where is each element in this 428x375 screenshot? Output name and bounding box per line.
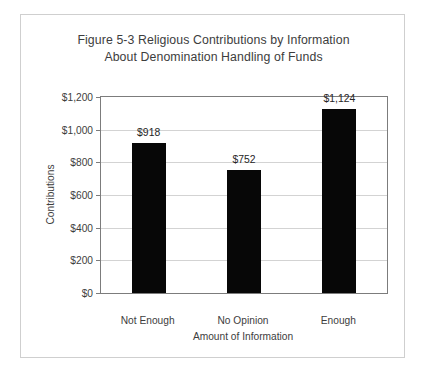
x-axis-category-label: Enough [321,315,356,326]
y-axis-tick [96,162,101,163]
bar [322,109,356,293]
y-axis-title-label: Contributions [45,164,56,224]
y-axis-tick [96,260,101,261]
y-axis-tick-label: $400 [70,222,93,233]
bar-value-label: $1,124 [323,93,355,104]
x-axis-title: Amount of Information [100,331,386,342]
plot-area: $0$200$400$600$800$1,000$1,200$918$752$1… [100,96,388,294]
bar [227,170,261,293]
y-axis-tick [96,130,101,131]
x-axis-category-label: No Opinion [218,315,269,326]
y-axis-tick [96,97,101,98]
x-axis-category-label: Not Enough [121,315,175,326]
y-axis-tick-label: $800 [70,157,93,168]
bar [132,143,166,293]
y-axis-tick-label: $0 [82,288,93,299]
y-axis-tick [96,293,101,294]
chart-title: Figure 5-3 Religious Contributions by In… [21,32,406,66]
y-axis-tick [96,228,101,229]
bar-value-label: $918 [137,127,160,138]
figure-border: Figure 5-3 Religious Contributions by In… [20,14,405,358]
y-axis-title: Contributions [43,96,57,292]
y-axis-tick-label: $600 [70,190,93,201]
y-axis-tick-label: $1,200 [62,92,93,103]
chart-title-line-1: Figure 5-3 Religious Contributions by In… [21,32,406,49]
x-axis-title-label: Amount of Information [193,331,293,342]
y-axis-tick-label: $1,000 [62,124,93,135]
bar-value-label: $752 [232,154,255,165]
y-axis-tick [96,195,101,196]
chart-title-line-2: About Denomination Handling of Funds [21,49,406,66]
y-axis-tick-label: $200 [70,255,93,266]
